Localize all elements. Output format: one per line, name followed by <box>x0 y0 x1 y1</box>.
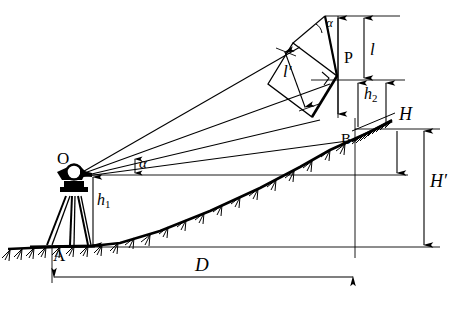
ray-lower-to-staff-bottom <box>79 120 320 177</box>
label-staff-intercept-slope: l′ <box>283 63 291 80</box>
diagram-root: O A B P α α l′ l h2 h1 D H H′ <box>0 0 471 311</box>
tripod-leg-left-b <box>52 196 70 245</box>
label-angle-alpha-at-staff: α <box>326 16 333 29</box>
instrument-base <box>64 181 84 187</box>
label-instrument-height-base: h <box>97 191 105 208</box>
tripod-leg-center <box>70 196 72 245</box>
label-total-elevation: H′ <box>430 172 447 190</box>
label-target-height-subscript: 2 <box>372 92 377 104</box>
right-angle-marker-at-p <box>322 72 329 85</box>
angle-arc-at-staff-top <box>316 24 322 33</box>
label-station-p: P <box>344 50 353 66</box>
surveying-diagram-svg <box>0 0 471 311</box>
label-instrument-height-subscript: 1 <box>105 198 110 210</box>
staff-front-face <box>312 76 337 117</box>
label-station-a: A <box>53 247 65 264</box>
label-instrument-height: h1 <box>97 192 110 210</box>
label-height-difference: H <box>399 105 412 123</box>
terrain-hatching <box>2 144 345 261</box>
ray-middle-to-p <box>79 84 330 175</box>
tripod-head-plate <box>60 187 88 192</box>
label-staff-intercept-vertical: l <box>370 41 375 58</box>
label-station-b: B <box>341 132 351 147</box>
ray-upper-to-staff-top <box>79 47 300 174</box>
theodolite-instrument <box>30 165 95 248</box>
staff-top-edge-to-vertical <box>293 16 325 43</box>
label-target-height: h2 <box>364 86 377 104</box>
label-angle-alpha-at-o: α <box>139 156 147 171</box>
tripod-leg-center-b <box>74 196 75 245</box>
label-horizontal-distance: D <box>195 255 209 274</box>
tripod-leg-left <box>47 196 66 245</box>
label-target-height-base: h <box>364 85 372 102</box>
label-station-o: O <box>57 150 69 167</box>
